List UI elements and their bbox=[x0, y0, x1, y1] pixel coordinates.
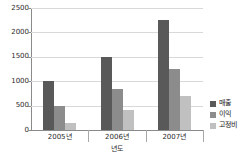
legend-item: 매출 bbox=[210, 98, 250, 109]
y-axis-tick-label: 2000 bbox=[3, 29, 29, 36]
y-axis-tick-label: 500 bbox=[3, 102, 29, 109]
legend-item: 고정비 bbox=[210, 120, 250, 131]
bar bbox=[123, 110, 134, 130]
bar bbox=[180, 96, 191, 130]
bar bbox=[112, 89, 123, 130]
legend-label: 매출 bbox=[219, 100, 231, 107]
y-axis-tick-label: 1500 bbox=[3, 53, 29, 60]
x-axis-separator bbox=[88, 130, 89, 142]
bar bbox=[54, 106, 65, 130]
x-axis-tick-label: 2006년 bbox=[88, 133, 145, 141]
y-axis-tick-mark bbox=[28, 130, 31, 131]
bar bbox=[43, 81, 54, 130]
legend-label: 이익 bbox=[219, 111, 231, 118]
bar bbox=[101, 57, 112, 130]
x-axis-separator bbox=[146, 130, 147, 142]
legend-swatch-icon bbox=[210, 101, 216, 107]
legend-label: 고정비 bbox=[219, 122, 237, 129]
bar bbox=[158, 20, 169, 130]
bar-group bbox=[101, 8, 134, 130]
y-axis-tick-label: 2500 bbox=[3, 5, 29, 12]
legend-swatch-icon bbox=[210, 123, 216, 129]
bar bbox=[65, 123, 76, 130]
x-axis-line bbox=[31, 130, 203, 131]
chart-legend: 매출이익고정비 bbox=[210, 98, 250, 131]
legend-swatch-icon bbox=[210, 112, 216, 118]
y-axis-tick-labels: 05001000150020002500 bbox=[0, 0, 29, 158]
x-axis-tick-label: 2005년 bbox=[31, 133, 88, 141]
bar-chart-figure: 05001000150020002500 2005년2006년2007년 년도 … bbox=[0, 0, 250, 158]
x-axis-tick-label: 2007년 bbox=[146, 133, 203, 141]
y-axis-tick-label: 0 bbox=[3, 127, 29, 134]
x-axis-title: 년도 bbox=[31, 145, 203, 153]
legend-item: 이익 bbox=[210, 109, 250, 120]
bar-group bbox=[43, 8, 76, 130]
bar-group bbox=[158, 8, 191, 130]
x-axis-separator bbox=[203, 130, 204, 142]
y-axis-tick-label: 1000 bbox=[3, 78, 29, 85]
bar bbox=[169, 69, 180, 130]
plot-area bbox=[31, 8, 203, 130]
